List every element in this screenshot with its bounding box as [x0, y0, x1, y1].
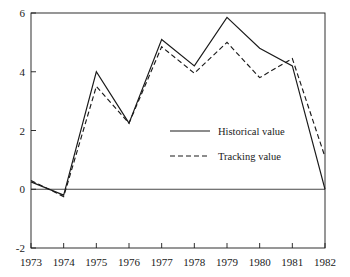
- line-chart: -20246 197319741975197619771978197919801…: [0, 0, 350, 277]
- x-tick-label: 1976: [118, 256, 141, 268]
- y-tick-label: 6: [20, 7, 26, 19]
- x-tick-label: 1981: [281, 256, 303, 268]
- y-tick-label: 2: [20, 125, 26, 137]
- y-tick-label: 0: [20, 183, 26, 195]
- legend-label: Tracking value: [218, 151, 281, 162]
- x-tick-label: 1979: [216, 256, 239, 268]
- y-axis-tick-labels: -20246: [16, 7, 26, 254]
- legend-label: Historical value: [218, 126, 285, 137]
- chart-canvas: -20246 197319741975197619771978197919801…: [0, 0, 350, 277]
- y-tick-label: 4: [20, 66, 26, 78]
- x-axis-tick-labels: 1973197419751976197719781979198019811982: [20, 256, 336, 268]
- x-tick-label: 1975: [85, 256, 108, 268]
- x-tick-label: 1980: [249, 256, 272, 268]
- x-tick-label: 1978: [183, 256, 206, 268]
- x-tick-label: 1974: [53, 256, 76, 268]
- y-tick-label: -2: [16, 242, 25, 254]
- x-tick-label: 1982: [314, 256, 336, 268]
- x-tick-label: 1977: [151, 256, 174, 268]
- x-tick-label: 1973: [20, 256, 43, 268]
